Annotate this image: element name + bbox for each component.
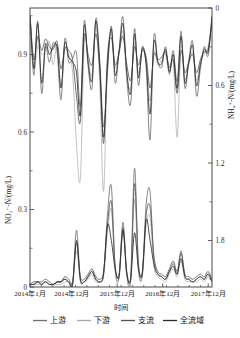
right-tick-label: 0.6 xyxy=(216,82,225,90)
series-line xyxy=(30,168,212,288)
x-axis-title: 时间 xyxy=(114,303,128,312)
x-axis-ticks xyxy=(30,284,208,288)
x-axis-tick-labels: 2014年1月2014年12月2015年12月2016年12月2017年12月 xyxy=(14,289,225,298)
right-tick-label: 1.2 xyxy=(216,160,225,168)
right-tick-label: 1.8 xyxy=(216,237,225,245)
series-line xyxy=(30,219,212,287)
left-tick-label: 0.9 xyxy=(18,51,27,59)
right-axis-tick-labels: 00.61.21.8 xyxy=(216,5,225,246)
dual-axis-time-series-chart: 00.30.60.9 00.61.21.8 2014年1月2014年12月201… xyxy=(0,0,240,338)
figure-container: 00.30.60.9 00.61.21.8 2014年1月2014年12月201… xyxy=(0,0,240,338)
left-tick-label: 0.3 xyxy=(18,206,27,214)
x-tick-label: 2016年12月 xyxy=(145,289,180,298)
legend-label: 支流 xyxy=(138,315,154,325)
x-tick-label: 2014年12月 xyxy=(54,289,89,298)
left-axis-tick-labels: 00.30.60.9 xyxy=(18,51,27,292)
x-tick-label: 2015年12月 xyxy=(100,289,135,298)
right-tick-label: 0 xyxy=(216,5,220,13)
x-tick-label: 2014年1月 xyxy=(14,289,46,298)
legend-label: 全流域 xyxy=(180,315,204,325)
chart-legend: 上游下游支流全流域 xyxy=(33,315,204,325)
legend-label: 下游 xyxy=(94,315,110,325)
x-tick-label: 2017年12月 xyxy=(191,289,226,298)
right-axis-title: NH₄⁺-N/(mg/L) xyxy=(227,70,236,118)
legend-label: 上游 xyxy=(50,315,66,325)
left-tick-label: 0.6 xyxy=(18,129,27,137)
left-axis-title: NO₂⁻-N/(mg/L) xyxy=(4,175,13,223)
series-lines xyxy=(30,14,212,288)
series-line xyxy=(30,184,212,285)
